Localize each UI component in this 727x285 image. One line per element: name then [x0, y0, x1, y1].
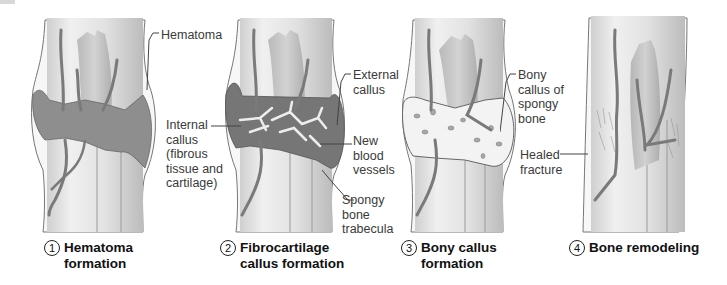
caption-stage-2-line1: Fibrocartilage — [240, 240, 329, 255]
stage-1-illustration — [25, 0, 160, 235]
caption-stage-3: 3Bony callus formation — [401, 240, 497, 272]
caption-stage-1: 1Hematoma formation — [44, 240, 133, 272]
number-circle-1: 1 — [44, 240, 60, 256]
caption-stage-4: 4Bone remodeling — [569, 240, 699, 256]
external-callus-leader-line — [335, 70, 355, 130]
stage-4-illustration — [575, 0, 700, 235]
caption-stage-3-line1: Bony callus — [421, 240, 497, 255]
caption-stage-4-line1: Bone remodeling — [589, 240, 699, 255]
label-new-blood-vessels: New blood vessels — [353, 134, 395, 178]
caption-stage-3-line2: formation — [401, 256, 497, 272]
caption-stage-1-line2: formation — [44, 256, 133, 272]
label-bony-callus-of-spongy-bone: Bony callus of spongy bone — [518, 68, 564, 126]
number-circle-2: 2 — [220, 240, 236, 256]
caption-stage-2-line2: callus formation — [220, 256, 344, 272]
number-circle-4: 4 — [569, 240, 585, 256]
label-hematoma: Hematoma — [161, 28, 222, 43]
internal-callus-leader-line — [211, 120, 241, 130]
label-healed-fracture: Healed fracture — [520, 148, 562, 177]
label-spongy-bone-trabecula: Spongy bone trabecula — [342, 193, 393, 237]
caption-stage-2: 2Fibrocartilage callus formation — [220, 240, 344, 272]
bony-callus-leader-line — [500, 70, 520, 140]
number-circle-3: 3 — [401, 240, 417, 256]
healed-fracture-leader-line — [560, 148, 590, 158]
label-external-callus: External callus — [353, 68, 399, 97]
caption-stage-1-line1: Hematoma — [64, 240, 133, 255]
new-blood-vessels-leader-line — [320, 138, 354, 148]
corner-mark — [0, 0, 15, 4]
